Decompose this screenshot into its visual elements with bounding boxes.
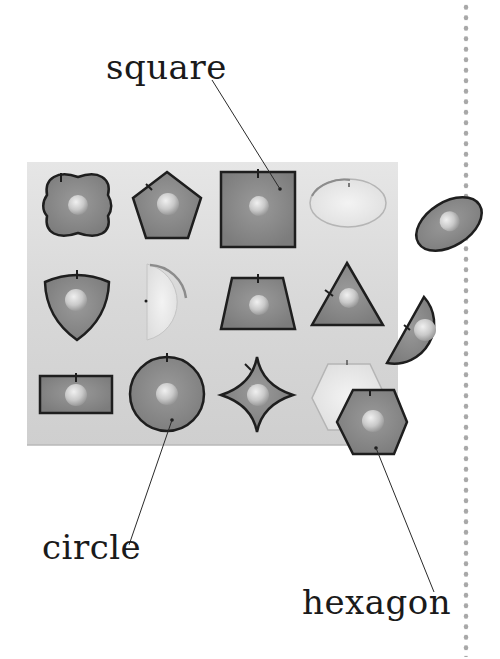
quatrefoil-piece [43, 173, 111, 236]
hexagon-label: hexagon [302, 585, 451, 619]
hexagon-leader-line [376, 448, 434, 592]
square-label: square [106, 50, 227, 84]
square-piece [221, 169, 295, 247]
oval-hole [310, 179, 386, 227]
circle-label: circle [42, 530, 141, 564]
loose-hexagon-piece [337, 390, 407, 454]
rectangle-piece [40, 373, 112, 413]
loose-oval-piece [407, 186, 491, 261]
trapezoid-piece [221, 274, 295, 329]
